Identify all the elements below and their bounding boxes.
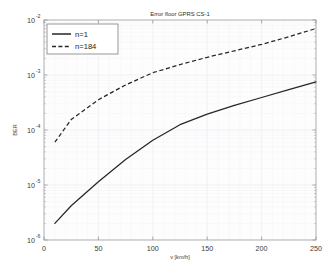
chart-title: Error floor GPRS CS-1	[150, 11, 210, 17]
svg-text:-6: -6	[36, 233, 41, 239]
x-tick-label: 0	[42, 244, 46, 253]
svg-text:-2: -2	[36, 13, 41, 19]
x-tick-label: 200	[256, 244, 268, 253]
legend-label-n-184: n=184	[75, 42, 96, 51]
svg-text:-3: -3	[36, 68, 41, 74]
svg-text:10: 10	[27, 126, 35, 135]
x-tick-label: 150	[201, 244, 213, 253]
figure-container: 050100150200250 10-610-510-410-310-2 Err…	[0, 0, 334, 273]
svg-text:10: 10	[27, 181, 35, 190]
x-tick-label: 100	[147, 244, 159, 253]
y-axis-title: BER	[12, 124, 18, 136]
x-tick-label: 50	[94, 244, 102, 253]
x-axis-title: v [km/h]	[170, 254, 190, 260]
chart-canvas: 050100150200250 10-610-510-410-310-2 Err…	[0, 0, 334, 273]
x-tick-label: 250	[310, 244, 322, 253]
legend-label-n-1: n=1	[75, 30, 88, 39]
svg-text:10: 10	[27, 71, 35, 80]
svg-text:-4: -4	[36, 123, 41, 129]
legend[interactable]: n=1n=184	[47, 24, 118, 54]
svg-text:10: 10	[27, 236, 35, 245]
svg-text:-5: -5	[36, 178, 41, 184]
svg-text:10: 10	[27, 16, 35, 25]
